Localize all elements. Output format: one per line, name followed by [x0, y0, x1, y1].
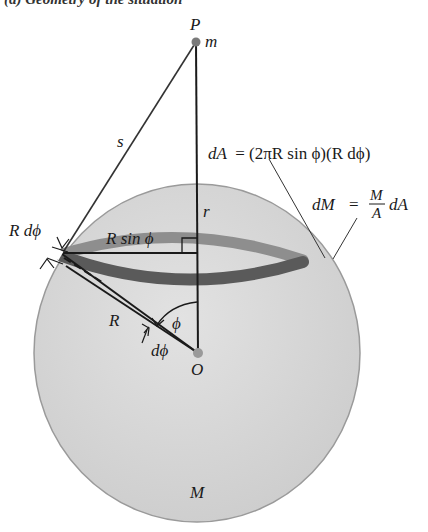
- label-o: O: [191, 360, 203, 379]
- label-m: m: [205, 32, 217, 51]
- label-r-dphi: R dϕ: [8, 221, 41, 240]
- equation-dM-lhs: dM: [312, 195, 336, 214]
- equation-dM-eq: =: [349, 195, 359, 214]
- label-r-sin-phi: R sin ϕ: [105, 229, 154, 248]
- r-dphi-arrow-bottom: [40, 259, 54, 269]
- label-p: P: [189, 15, 200, 34]
- shell-geometry-diagram: P m s r R sin ϕ R dϕ R ϕ dϕ O M dA = (2π…: [0, 0, 428, 532]
- equation-dA-lhs: dA: [208, 144, 228, 163]
- equation-dA: dA = (2πR sin ϕ)(R dϕ): [208, 144, 370, 163]
- label-big-r: R: [108, 311, 120, 330]
- label-dphi: dϕ: [151, 341, 169, 360]
- point-p: [192, 38, 201, 47]
- leader-dM: [333, 218, 357, 259]
- equation-dM-denominator: A: [371, 205, 382, 221]
- equation-dM-tail: dA: [389, 195, 409, 214]
- label-phi: ϕ: [172, 314, 181, 333]
- point-o: [193, 348, 203, 358]
- label-r: r: [203, 202, 210, 221]
- equation-dM-numerator: M: [369, 187, 384, 203]
- equation-dA-rhs: = (2πR sin ϕ)(R dϕ): [235, 144, 370, 163]
- label-big-m: M: [189, 483, 205, 502]
- label-s: s: [117, 132, 124, 151]
